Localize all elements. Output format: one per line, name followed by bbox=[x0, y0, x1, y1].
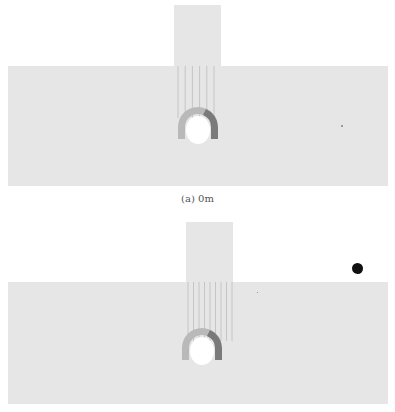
tunnel-opening bbox=[186, 116, 210, 144]
speck bbox=[257, 292, 258, 293]
caption-a: (a) 0m bbox=[0, 193, 395, 204]
ink-stain bbox=[352, 263, 363, 274]
tunnel-opening bbox=[190, 337, 214, 365]
panel-b bbox=[0, 215, 395, 412]
tunnel-diagram-b bbox=[0, 215, 395, 412]
tunnel-diagram-a bbox=[0, 0, 395, 190]
speck bbox=[341, 125, 343, 127]
panel-a bbox=[0, 0, 395, 190]
